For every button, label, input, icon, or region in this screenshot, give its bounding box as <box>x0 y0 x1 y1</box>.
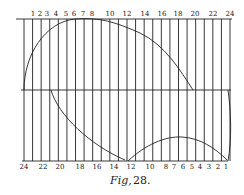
top-scale-label: 22 <box>209 10 218 18</box>
top-scale-labels: 123456781012141618202224 <box>31 10 235 18</box>
figure-diagram: 123456781012141618202224 242220181614121… <box>0 0 244 195</box>
bottom-scale-label: 10 <box>146 163 155 171</box>
bottom-scale-label: 16 <box>93 163 102 171</box>
bottom-scale-label: 24 <box>20 163 29 171</box>
bottom-scale-labels: 242220181614121087654321 <box>20 163 229 171</box>
top-scale-label: 3 <box>45 10 49 18</box>
bottom-scale-label: 7 <box>172 163 176 171</box>
top-scale-label: 8 <box>90 10 94 18</box>
bottom-scale-label: 4 <box>198 163 203 171</box>
top-scale-label: 1 <box>31 10 35 18</box>
bottom-scale-label: 5 <box>190 163 194 171</box>
top-scale-label: 14 <box>141 10 150 18</box>
bottom-scale-label: 14 <box>110 163 119 171</box>
top-scale-label: 16 <box>158 10 167 18</box>
caption-label: Fig, <box>109 174 132 187</box>
lower-curve-left <box>51 90 125 160</box>
top-scale-label: 2 <box>38 10 42 18</box>
top-scale-label: 5 <box>64 10 68 18</box>
bottom-scale-label: 8 <box>164 163 168 171</box>
bottom-scale-label: 1 <box>224 163 228 171</box>
top-scale-label: 4 <box>54 10 59 18</box>
bottom-scale-label: 12 <box>127 163 136 171</box>
top-scale-label: 20 <box>191 10 200 18</box>
caption-number: 28. <box>133 174 151 187</box>
top-scale-label: 6 <box>72 10 77 18</box>
bottom-scale-label: 18 <box>76 163 85 171</box>
bottom-scale-label: 2 <box>216 163 220 171</box>
top-scale-label: 18 <box>174 10 183 18</box>
bottom-scale-label: 3 <box>207 163 211 171</box>
top-scale-label: 24 <box>226 10 235 18</box>
frame-lines <box>16 19 232 161</box>
bottom-scale-label: 20 <box>56 163 65 171</box>
top-scale-label: 7 <box>81 10 85 18</box>
top-scale-label: 12 <box>123 10 132 18</box>
bottom-scale-label: 22 <box>39 163 48 171</box>
lower-curve-hump <box>128 137 227 161</box>
top-scale-label: 10 <box>106 10 115 18</box>
bottom-scale-label: 6 <box>181 163 186 171</box>
